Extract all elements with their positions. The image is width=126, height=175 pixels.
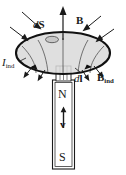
label-north-pole: N — [58, 88, 67, 100]
label-area-element-symbol: S — [39, 18, 45, 30]
label-induced-current: Iind — [2, 57, 14, 68]
b-arrow-upper-right-inner — [83, 16, 102, 31]
label-induced-current-subscript: ind — [6, 62, 15, 69]
induction-figure: dS B Iind dl Bind N v S — [0, 0, 126, 175]
label-velocity: v — [60, 119, 66, 130]
label-length-element-symbol: l — [80, 72, 83, 84]
b-arrow-upper-left-inner — [10, 27, 29, 41]
area-element-patch — [46, 36, 59, 42]
label-south-pole: S — [59, 151, 66, 163]
label-area-element: dS — [33, 19, 45, 30]
label-induced-field: Bind — [97, 72, 114, 83]
b-arrow-upper-right-outer — [96, 29, 115, 42]
label-magnetic-field-symbol: B — [76, 14, 83, 26]
label-induced-field-subscript: ind — [104, 77, 113, 84]
label-length-element: dl — [74, 73, 83, 84]
label-magnetic-field: B — [76, 15, 83, 26]
